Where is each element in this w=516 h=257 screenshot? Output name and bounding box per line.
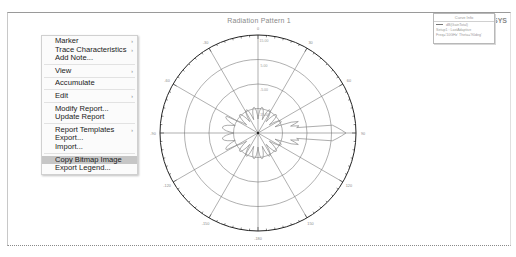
angle-tick (173, 180, 176, 182)
menu-item-add-note[interactable]: Add Note... (42, 54, 137, 63)
angle-tick (189, 64, 190, 65)
angle-tick (339, 180, 342, 182)
menu-item-label: Export Legend... (55, 163, 111, 172)
angle-tick (305, 214, 307, 217)
angle-label: -120 (163, 184, 171, 188)
context-menu: Marker›Trace Characteristics›Add Note...… (41, 35, 138, 175)
menu-item-label: View (55, 66, 71, 75)
angle-label: 0 (257, 27, 259, 31)
grid-spoke (173, 84, 258, 133)
angle-tick (169, 174, 171, 175)
angle-label: -90 (150, 132, 156, 136)
angle-tick (178, 77, 180, 78)
angle-label: -60 (164, 79, 170, 83)
angle-label: 90 (361, 132, 365, 136)
angle-label: -180 (254, 237, 262, 241)
menu-item-label: Edit (55, 91, 68, 100)
radial-label: 15.00 (260, 39, 269, 43)
angle-tick (189, 201, 190, 202)
menu-item-label: Add Note... (55, 53, 93, 62)
angle-label: 30 (308, 41, 312, 45)
submenu-arrow-icon: › (131, 46, 133, 55)
menu-item-label: Update Report (55, 112, 104, 121)
grid-spoke (209, 48, 258, 133)
submenu-arrow-icon: › (131, 37, 133, 46)
menu-item-update-report[interactable]: Update Report (42, 113, 137, 122)
angle-tick (209, 214, 211, 217)
legend-header: Curve Info (434, 14, 494, 22)
center-point (257, 132, 259, 134)
angle-tick (183, 70, 185, 71)
angle-label: -30 (203, 41, 209, 45)
angle-tick (313, 212, 314, 214)
radial-label: 5.00 (261, 64, 268, 68)
menu-item-import[interactable]: Import... (42, 143, 137, 152)
grid-spoke (258, 133, 307, 218)
angle-tick (169, 92, 171, 93)
angle-label: 150 (307, 222, 313, 226)
grid-spoke (173, 133, 258, 182)
submenu-arrow-icon: › (131, 92, 133, 101)
angle-tick (337, 77, 339, 78)
curve-info-legend[interactable]: Curve Info dB(GainTotal) Setup1 : LastAd… (433, 13, 495, 44)
angle-tick (209, 48, 211, 51)
radial-label: -5.00 (260, 88, 268, 92)
angle-tick (320, 207, 321, 209)
angle-tick (195, 58, 196, 60)
legend-entry: Freq='10GHz' Theta='90deg' (434, 32, 494, 37)
submenu-arrow-icon: › (131, 67, 133, 76)
angle-tick (183, 195, 185, 196)
angle-tick (217, 44, 218, 46)
angle-label: 120 (346, 184, 352, 188)
angle-tick (202, 212, 203, 214)
submenu-arrow-icon: › (131, 126, 133, 135)
angle-label: -150 (202, 222, 210, 226)
angle-tick (332, 195, 334, 196)
angle-tick (202, 53, 203, 55)
angle-tick (326, 64, 327, 65)
angle-tick (178, 188, 180, 189)
angle-tick (217, 220, 218, 222)
angle-label: 60 (347, 79, 351, 83)
angle-tick (326, 201, 327, 202)
menu-item-label: Import... (55, 142, 83, 151)
angle-tick (313, 53, 314, 55)
grid-spoke (209, 133, 258, 218)
menu-item-export-legend[interactable]: Export Legend... (42, 164, 137, 173)
angle-tick (195, 207, 196, 209)
angle-tick (299, 220, 300, 222)
angle-tick (345, 174, 347, 175)
angle-tick (173, 84, 176, 86)
angle-tick (337, 188, 339, 189)
trace-swatch-icon (436, 24, 443, 25)
angle-tick (299, 44, 300, 46)
menu-item-edit[interactable]: Edit› (42, 92, 137, 101)
menu-item-view[interactable]: View› (42, 67, 137, 76)
angle-tick (305, 48, 307, 51)
menu-item-accumulate[interactable]: Accumulate (42, 79, 137, 88)
menu-item-label: Accumulate (55, 78, 95, 87)
angle-tick (320, 58, 321, 60)
angle-tick (332, 70, 334, 71)
angle-tick (339, 84, 342, 86)
angle-tick (345, 92, 347, 93)
